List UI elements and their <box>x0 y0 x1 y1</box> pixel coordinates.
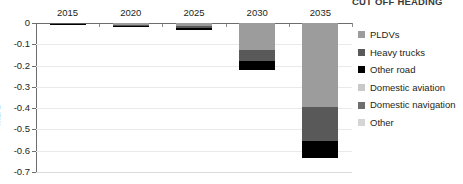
legend-label: Heavy trucks <box>370 48 425 58</box>
bar-stack <box>176 23 212 172</box>
y-tick-label: 0 <box>0 18 30 28</box>
legend-label: PLDVs <box>370 30 400 40</box>
y-axis-title: mb/d <box>0 105 2 126</box>
legend-label: Domestic aviation <box>370 83 445 93</box>
legend-item[interactable]: Other road <box>358 61 462 79</box>
x-tick-label: 2035 <box>297 8 343 18</box>
bar-segment <box>113 26 149 27</box>
x-tick-label: 2020 <box>108 8 154 18</box>
bar-segment <box>302 107 338 141</box>
x-tick-label: 2015 <box>45 8 91 18</box>
y-tick-label: -0.7 <box>0 167 30 177</box>
legend-item[interactable]: Domestic navigation <box>358 96 462 114</box>
gridline <box>36 172 352 173</box>
x-tick-mark <box>352 23 353 27</box>
y-tick-label: -0.1 <box>0 39 30 49</box>
chart-container: CUT OFF HEADING 0-0.1-0.2-0.3-0.4-0.5-0.… <box>0 0 463 184</box>
y-tick-label: -0.4 <box>0 103 30 113</box>
y-tick-label: -0.5 <box>0 124 30 134</box>
legend-item[interactable]: PLDVs <box>358 26 462 44</box>
legend-swatch-icon <box>358 119 365 126</box>
x-tick-label: 2025 <box>171 8 217 18</box>
bar-stack <box>50 23 86 172</box>
plot-area <box>36 23 352 172</box>
legend-swatch-icon <box>358 49 365 56</box>
legend: PLDVsHeavy trucksOther roadDomestic avia… <box>358 26 462 132</box>
legend-swatch-icon <box>358 66 365 73</box>
legend-item[interactable]: Other <box>358 114 462 132</box>
legend-swatch-icon <box>358 84 365 91</box>
bar-segment <box>176 28 212 31</box>
bar-segment <box>239 23 275 50</box>
legend-label: Other <box>370 118 394 128</box>
bar-segment <box>239 50 275 62</box>
bar-stack <box>239 23 275 172</box>
x-tick-label: 2030 <box>234 8 280 18</box>
legend-item[interactable]: Heavy trucks <box>358 44 462 62</box>
clipped-header-text: CUT OFF HEADING <box>352 0 460 5</box>
y-tick-label: -0.6 <box>0 146 30 156</box>
y-tick-label: -0.3 <box>0 82 30 92</box>
legend-item[interactable]: Domestic aviation <box>358 79 462 97</box>
bar-segment <box>302 141 338 158</box>
clipped-header-label: CUT OFF HEADING <box>352 0 460 5</box>
legend-swatch-icon <box>358 31 365 38</box>
bar-stack <box>113 23 149 172</box>
bar-stack <box>302 23 338 172</box>
legend-label: Other road <box>370 65 415 75</box>
legend-label: Domestic navigation <box>370 100 456 110</box>
legend-swatch-icon <box>358 102 365 109</box>
bar-segment <box>239 61 275 70</box>
bar-segment <box>302 23 338 107</box>
y-tick-label: -0.2 <box>0 61 30 71</box>
